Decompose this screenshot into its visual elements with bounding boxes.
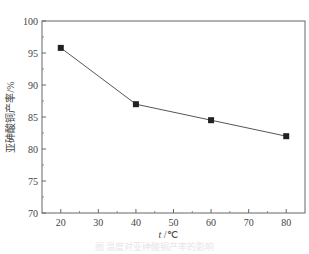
x-tick-label: 30 <box>93 217 103 228</box>
x-tick-label: 80 <box>281 217 291 228</box>
square-marker <box>208 117 214 123</box>
x-tick-label: 20 <box>56 217 66 228</box>
line-chart: 707580859095100 20304050607080 t /℃ 亚砷酸铜… <box>0 0 309 254</box>
y-tick-label: 100 <box>23 16 38 27</box>
y-tick-label: 85 <box>28 112 38 123</box>
square-marker <box>133 101 139 107</box>
plot-frame <box>42 21 305 213</box>
x-axis-ticks: 20304050607080 <box>56 209 291 228</box>
y-tick-label: 95 <box>28 48 38 59</box>
x-tick-label: 60 <box>206 217 216 228</box>
square-marker <box>58 45 64 51</box>
data-point-markers <box>58 45 289 139</box>
series-line <box>61 48 286 136</box>
x-axis-title: t /℃ <box>158 229 177 240</box>
y-tick-label: 75 <box>28 176 38 187</box>
y-tick-label: 80 <box>28 144 38 155</box>
y-tick-label: 70 <box>28 208 38 219</box>
y-axis-title: 亚砷酸铜产率/% <box>4 81 16 152</box>
x-tick-label: 70 <box>244 217 254 228</box>
square-marker <box>283 133 289 139</box>
y-axis-ticks: 707580859095100 <box>23 16 46 219</box>
x-tick-label: 50 <box>169 217 179 228</box>
y-tick-label: 90 <box>28 80 38 91</box>
x-tick-label: 40 <box>131 217 141 228</box>
figure-caption: 图 温度对亚砷酸铜产率的影响 <box>0 240 309 253</box>
